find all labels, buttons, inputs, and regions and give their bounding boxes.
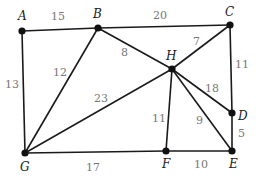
edge-H-F — [166, 69, 172, 151]
edge-weight-C-D: 11 — [235, 58, 249, 71]
edge-C-D — [230, 25, 232, 113]
edge-weight-H-G: 23 — [94, 92, 108, 105]
node-D — [228, 109, 235, 116]
graph-diagram: 152013128711231811951710ABCHDEFG — [0, 0, 256, 180]
edge-weight-G-F: 17 — [86, 161, 100, 174]
edge-A-G — [22, 31, 25, 153]
node-label-B: B — [92, 7, 102, 21]
edge-G-F — [25, 151, 166, 153]
node-E — [228, 147, 235, 154]
node-label-F: F — [161, 157, 171, 171]
node-label-D: D — [237, 109, 248, 123]
node-label-G: G — [20, 160, 30, 174]
edge-A-B — [22, 28, 98, 31]
edge-B-H — [98, 28, 172, 69]
edge-B-G — [25, 28, 98, 153]
edge-weight-D-E: 5 — [238, 127, 245, 140]
node-A — [18, 27, 25, 34]
edge-weight-A-B: 15 — [51, 10, 65, 23]
node-label-A: A — [17, 9, 27, 23]
edge-H-E — [172, 69, 232, 151]
node-F — [162, 147, 169, 154]
edge-weight-F-E: 10 — [194, 158, 208, 171]
edge-H-G — [25, 69, 172, 153]
edge-weight-H-E: 9 — [196, 114, 203, 127]
node-G — [21, 149, 28, 156]
node-B — [94, 24, 101, 31]
node-H — [168, 65, 175, 72]
graph-svg: 152013128711231811951710ABCHDEFG — [0, 0, 256, 180]
node-label-C: C — [225, 5, 234, 19]
edge-weight-B-G: 12 — [53, 66, 67, 79]
node-label-E: E — [228, 157, 238, 171]
edge-weight-H-F: 11 — [152, 112, 166, 125]
edge-C-H — [172, 25, 230, 69]
edge-weight-A-G: 13 — [5, 78, 19, 91]
edge-H-D — [172, 69, 232, 113]
node-label-H: H — [165, 49, 177, 63]
edge-weight-B-H: 8 — [121, 46, 128, 59]
edge-weight-B-C: 20 — [153, 9, 167, 22]
edge-B-C — [98, 25, 230, 28]
edge-weight-C-H: 7 — [193, 35, 200, 48]
node-C — [226, 21, 233, 28]
edge-weight-H-D: 18 — [205, 82, 219, 95]
